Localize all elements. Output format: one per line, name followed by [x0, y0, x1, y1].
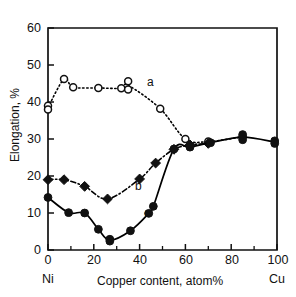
xtick-label-100: 100 [261, 253, 295, 267]
data-point-a [157, 105, 164, 112]
xtick-label-60: 60 [169, 253, 203, 267]
curve-label-a: a [147, 75, 154, 89]
series-line-b [48, 143, 208, 199]
curve-label-b: b [135, 179, 142, 193]
data-point-c [239, 136, 247, 144]
data-point-c [81, 209, 89, 217]
data-point-a [70, 84, 77, 91]
data-point-a [95, 84, 102, 91]
series-c [44, 131, 279, 245]
xtick-label-20: 20 [77, 253, 111, 267]
data-point-a [125, 86, 132, 93]
series-a [45, 76, 247, 146]
data-series-group [43, 76, 279, 245]
data-point-a [118, 85, 125, 92]
data-point-c [127, 227, 135, 235]
data-point-b [103, 194, 113, 204]
curve-label-c: c [144, 206, 150, 220]
data-point-c [44, 194, 52, 202]
y-axis-title: Elongation, % [8, 69, 22, 181]
data-point-c [94, 225, 102, 233]
data-point-b [80, 181, 90, 191]
data-point-c [65, 209, 73, 217]
data-point-a [125, 78, 132, 85]
axis-endpoint-cu: Cu [264, 272, 290, 286]
data-point-c [170, 145, 178, 153]
data-point-c [271, 140, 279, 148]
data-point-a [45, 106, 52, 113]
xtick-label-0: 0 [31, 253, 65, 267]
ytick-label-10: 10 [15, 206, 41, 220]
data-point-c [149, 202, 157, 210]
x-axis-title: Copper content, atom% [97, 274, 223, 288]
data-point-c [207, 139, 215, 147]
chart-figure: 60 50 40 30 20 10 0 0 20 40 60 80 100 Ni… [0, 0, 296, 297]
data-point-c [106, 237, 114, 245]
data-point-c [186, 143, 194, 151]
data-point-a [61, 76, 68, 83]
xtick-label-80: 80 [215, 253, 249, 267]
data-point-b [59, 175, 69, 185]
axis-endpoint-ni: Ni [35, 272, 61, 286]
ytick-label-60: 60 [15, 21, 41, 35]
xtick-label-40: 40 [123, 253, 157, 267]
